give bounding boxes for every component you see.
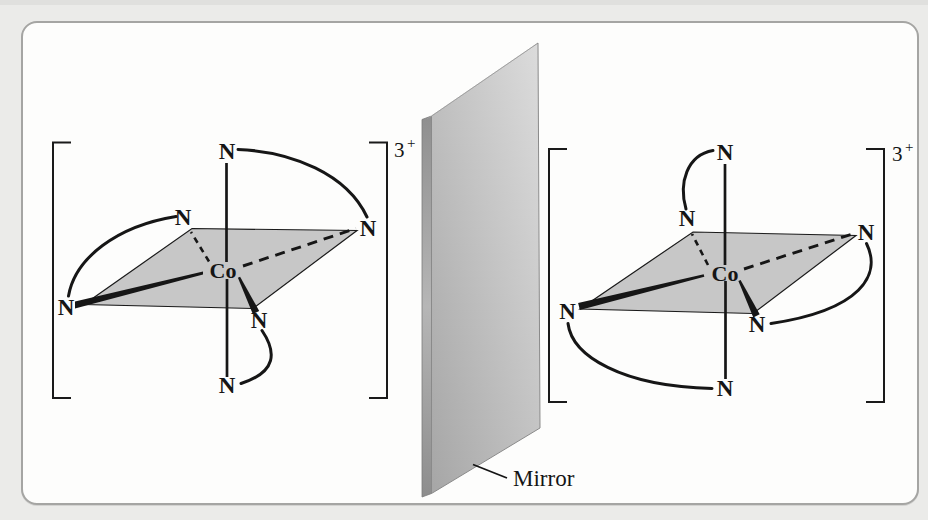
left-complex: 3 + N N N N N N Co [53, 135, 415, 398]
right-complex-charge-sign: + [905, 139, 913, 155]
chelate-arc-bottom-left [568, 324, 712, 389]
nitrogen-label-bottom: N [219, 373, 236, 398]
chirality-diagram: Mirror 3 + N N N N N N Co 3 + [0, 0, 928, 520]
nitrogen-label-back-left: N [679, 206, 696, 231]
nitrogen-label-front-left: N [559, 299, 576, 324]
nitrogen-label-back-right: N [360, 216, 377, 241]
nitrogen-label-bottom: N [717, 376, 734, 401]
left-complex-bracket-close [369, 143, 387, 399]
nitrogen-label-top: N [219, 139, 236, 164]
chelate-arc-bottom [241, 331, 271, 384]
cobalt-label: Co [210, 258, 237, 283]
right-complex: 3 + N N N N N N Co [549, 139, 913, 402]
chelate-arc-top-right [238, 150, 367, 218]
mirror-edge [422, 116, 432, 497]
chelate-arc-top-left [683, 151, 713, 210]
nitrogen-label-front-left: N [58, 295, 75, 320]
mirror-pointer-line [473, 465, 507, 479]
nitrogen-label-front-right: N [749, 312, 766, 337]
right-complex-charge-number: 3 [892, 142, 903, 166]
mirror-face [432, 43, 541, 494]
nitrogen-label-back-left: N [175, 205, 192, 230]
cobalt-label: Co [712, 261, 739, 286]
mirror-label: Mirror [513, 466, 575, 491]
right-complex-bracket-open [549, 149, 567, 402]
mirror-panel: Mirror [422, 43, 575, 497]
nitrogen-label-top: N [717, 140, 734, 165]
left-complex-charge-number: 3 [394, 138, 405, 162]
left-complex-bracket-open [53, 143, 71, 399]
left-complex-charge-sign: + [407, 135, 415, 151]
nitrogen-label-back-right: N [858, 220, 875, 245]
nitrogen-label-front-right: N [251, 308, 268, 333]
